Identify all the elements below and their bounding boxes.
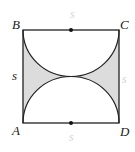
side-label-bottom: s: [69, 130, 74, 144]
side-label-left: s: [12, 68, 17, 83]
bottom-midpoint-dot: [69, 121, 73, 125]
side-label-right: s: [122, 72, 127, 86]
square-diagram: B C A D s s s s: [0, 0, 135, 152]
vertex-label-a: A: [11, 123, 20, 138]
side-label-top: s: [70, 7, 75, 21]
vertex-label-b: B: [12, 17, 20, 32]
vertex-label-d: D: [119, 124, 130, 139]
vertex-label-c: C: [120, 17, 129, 32]
top-midpoint-dot: [69, 28, 73, 32]
